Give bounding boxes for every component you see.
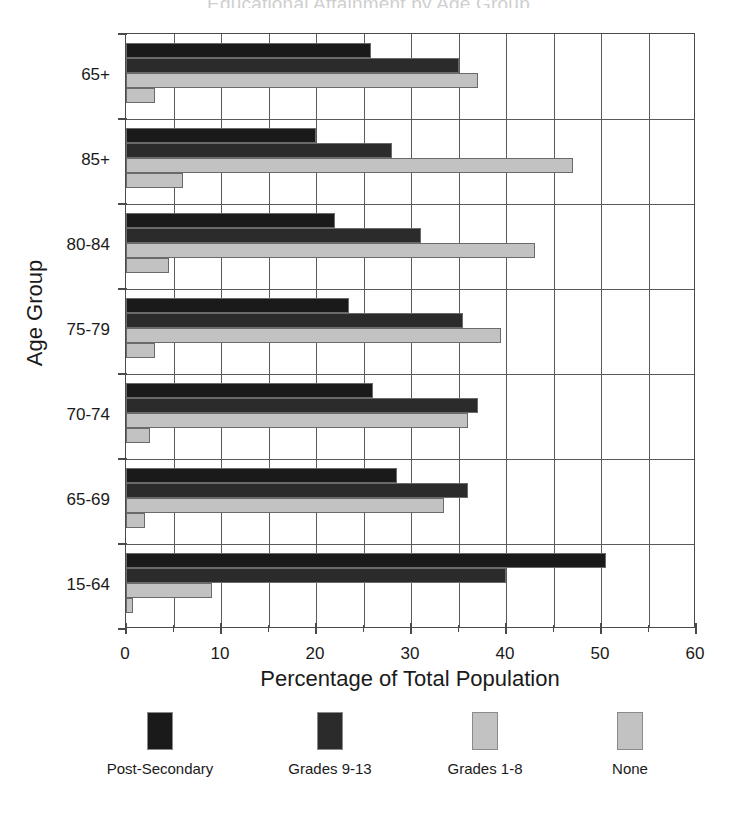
legend-label: Grades 9-13 [245, 760, 415, 777]
y-tick-label: 65-69 [26, 490, 110, 510]
legend-entry[interactable]: Grades 9-13 [245, 712, 415, 777]
x-tick-major [220, 623, 222, 634]
x-tick-label: 20 [285, 644, 345, 664]
chart-legend: Post-SecondaryGrades 9-13Grades 1-8None [0, 712, 737, 802]
bar [126, 313, 463, 328]
y-tick-label: 65+ [26, 65, 110, 85]
bar [126, 213, 335, 228]
bar [126, 328, 501, 343]
bar-group [126, 374, 694, 459]
x-tick-label: 50 [570, 644, 630, 664]
bar [126, 398, 478, 413]
x-tick-major [505, 623, 507, 634]
x-tick-label: 60 [665, 644, 725, 664]
x-tick-label: 30 [380, 644, 440, 664]
bar [126, 143, 392, 158]
bar [126, 343, 155, 358]
legend-entry[interactable]: Post-Secondary [75, 712, 245, 777]
y-tick-mark [118, 118, 127, 120]
legend-label: None [545, 760, 715, 777]
y-tick-mark [118, 628, 127, 630]
bar [126, 468, 397, 483]
bar [126, 228, 421, 243]
bar-group [126, 459, 694, 544]
x-tick-minor [458, 625, 460, 632]
bar [126, 173, 183, 188]
bar [126, 298, 349, 313]
y-tick-mark [118, 543, 127, 545]
y-tick-mark [118, 203, 127, 205]
y-tick-mark [118, 288, 127, 290]
bar [126, 428, 150, 443]
bar [126, 498, 444, 513]
bar [126, 553, 606, 568]
bar [126, 413, 468, 428]
plot-area [125, 33, 695, 628]
bar [126, 88, 155, 103]
y-tick-mark [118, 458, 127, 460]
bar [126, 158, 573, 173]
legend-swatch [472, 712, 498, 750]
bar [126, 258, 169, 273]
chart-title-cutoff: Educational Attainment by Age Group [0, 0, 737, 8]
y-tick-label: 85+ [26, 150, 110, 170]
bar-group [126, 34, 694, 119]
bar [126, 513, 145, 528]
y-axis-title: Age Group [22, 223, 48, 403]
x-tick-major [410, 623, 412, 634]
y-tick-mark [118, 33, 127, 35]
x-tick-major [695, 623, 697, 634]
x-tick-major [600, 623, 602, 634]
bar [126, 598, 133, 613]
x-tick-minor [363, 625, 365, 632]
bar [126, 243, 535, 258]
bar [126, 58, 459, 73]
x-tick-minor [648, 625, 650, 632]
bar [126, 73, 478, 88]
bar [126, 568, 506, 583]
bar-group [126, 289, 694, 374]
bar [126, 483, 468, 498]
legend-swatch [317, 712, 343, 750]
bar-group [126, 544, 694, 629]
x-tick-minor [268, 625, 270, 632]
x-axis-title: Percentage of Total Population [125, 666, 695, 692]
bar [126, 383, 373, 398]
legend-entry[interactable]: None [545, 712, 715, 777]
bar-group [126, 204, 694, 289]
x-tick-label: 10 [190, 644, 250, 664]
y-tick-mark [118, 373, 127, 375]
bar [126, 128, 316, 143]
bar [126, 583, 212, 598]
legend-swatch [617, 712, 643, 750]
x-tick-minor [553, 625, 555, 632]
bar [126, 43, 371, 58]
legend-label: Post-Secondary [75, 760, 245, 777]
y-tick-label: 70-74 [26, 405, 110, 425]
y-tick-label: 15-64 [26, 575, 110, 595]
y-axis-labels: 65+85+80-8475-7970-7465-6915-64 [26, 0, 110, 817]
x-tick-major [315, 623, 317, 634]
legend-swatch [147, 712, 173, 750]
x-tick-minor [173, 625, 175, 632]
x-tick-label: 40 [475, 644, 535, 664]
bar-group [126, 119, 694, 204]
